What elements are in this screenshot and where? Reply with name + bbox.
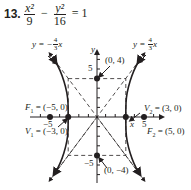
label-v1: V1 = (−3, 0) xyxy=(25,126,68,138)
label-v2: V2 = (3, 0) xyxy=(144,103,182,115)
point-0-4 xyxy=(94,76,100,82)
vertex-v2 xyxy=(123,114,129,120)
label-f2: F2 = (5, 0) xyxy=(147,126,185,138)
hyperbola-graph xyxy=(0,0,191,190)
label-f1: F1 = (−5, 0) xyxy=(25,102,68,114)
tick-y-neg5: −5 xyxy=(84,158,94,168)
label-point-0-neg4: (0, −4) xyxy=(104,165,129,175)
x-axis-label: x xyxy=(130,119,134,129)
vertex-v1 xyxy=(65,114,71,120)
y-axis-label: y xyxy=(91,44,95,54)
point-0-neg4 xyxy=(94,152,100,158)
asymptote-right-label: y = 43x xyxy=(133,37,157,52)
label-point-0-4: (0, 4) xyxy=(105,55,125,65)
asymptote-left-label: y = −43x xyxy=(32,37,62,52)
tick-y-5: 5 xyxy=(88,63,93,73)
tick-x-5: 5 xyxy=(142,119,147,129)
